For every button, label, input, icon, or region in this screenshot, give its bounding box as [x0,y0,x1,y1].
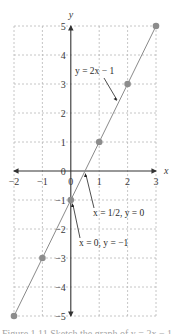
x-tick-label: 3 [154,176,159,187]
x-tick-label: 1 [97,176,102,187]
annotations: y = 2x − 1x = 1/2, y = 0x = 0, y = −1 [71,66,145,248]
line-chart: xy −2−10123543210−1−2−3−4−5 y = 2x − 1x … [0,0,180,334]
line-equation-label: y = 2x − 1 [75,66,114,76]
y-axis-label: y [68,9,74,20]
x-tick-label: −2 [9,176,20,187]
annotation-arrow [86,175,94,208]
y-tick-label: −5 [55,311,66,322]
x-tick-label: 0 [68,176,73,187]
y-intercept-label: x = 0, y = −1 [79,238,129,248]
y-tick-label: 3 [61,79,66,90]
arrowhead-icon [114,98,118,102]
y-tick-label: −1 [55,195,66,206]
data-point [153,23,160,30]
y-tick-label: −4 [55,282,66,293]
data-point [39,255,46,262]
y-tick-label: 1 [61,137,66,148]
x-tick-label: 2 [125,176,130,187]
x-tick-label: −1 [37,176,48,187]
y-tick-label: 4 [61,50,66,61]
x-axis-label: x [163,165,169,176]
data-point [124,81,131,88]
y-tick-label: 5 [61,21,66,32]
x-intercept-label: x = 1/2, y = 0 [93,208,145,218]
arrowhead-icon [84,173,87,177]
figure-caption: Figure 1.11 Sketch the graph of y = 2x −… [2,327,180,334]
data-point [68,197,75,204]
y-tick-label: 2 [61,108,66,119]
data-point [11,313,18,320]
y-tick-label: −3 [55,253,66,264]
annotation-arrow [73,205,80,238]
annotation-arrow [104,78,117,100]
y-tick-label: 0 [61,166,66,177]
data-point [96,139,103,146]
arrowhead-icon [71,203,74,207]
